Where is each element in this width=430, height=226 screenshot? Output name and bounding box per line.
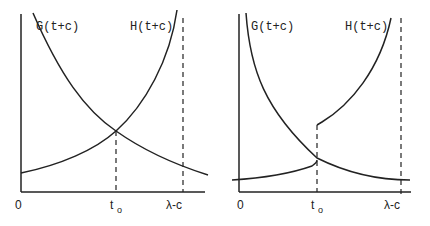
right-tick-t: t: [311, 198, 315, 212]
left-h-label: H(t+c): [130, 20, 173, 34]
right-tick-zero: 0: [237, 198, 244, 212]
left-tick-t-sub: o: [117, 205, 122, 215]
right-g-label: G(t+c): [251, 20, 294, 34]
left-tick-lambda: λ-c: [166, 198, 182, 212]
right-tick-lambda: λ-c: [384, 198, 400, 212]
left-g-label: G(t+c): [36, 20, 79, 34]
diagram-canvas: G(t+c) H(t+c) 0 t o λ-c G(t+c) H(t+c) 0 …: [0, 0, 430, 226]
left-panel: [21, 10, 208, 192]
left-tick-t: t: [110, 198, 114, 212]
right-panel: [232, 13, 411, 196]
left-h-curve: [21, 10, 177, 173]
left-tick-zero: 0: [15, 198, 22, 212]
right-h-curve-upper: [317, 18, 391, 125]
right-h-curve-lower: [232, 160, 317, 180]
right-tick-t-sub: o: [318, 205, 323, 215]
left-g-curve: [33, 13, 208, 175]
right-h-label: H(t+c): [345, 20, 388, 34]
